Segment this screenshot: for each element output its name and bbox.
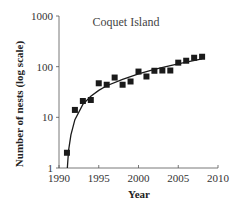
data-point: [64, 150, 70, 156]
data-point: [151, 68, 157, 74]
data-point: [183, 58, 189, 64]
data-point: [143, 73, 149, 79]
data-point: [112, 75, 118, 81]
y-tick-label: 10: [42, 111, 54, 123]
chart-title: Coquet Island: [93, 15, 160, 29]
data-point: [191, 55, 197, 61]
data-points: [64, 54, 205, 156]
data-point: [159, 68, 165, 74]
data-point: [175, 60, 181, 66]
data-point: [80, 98, 86, 104]
trend-line: [67, 59, 202, 168]
x-tick-label: 1995: [88, 172, 111, 184]
y-ticks: 1101001000: [31, 10, 59, 174]
data-point: [167, 68, 173, 74]
x-axis-label: Year: [128, 188, 150, 200]
data-point: [72, 107, 78, 113]
data-point: [199, 54, 205, 60]
axes: 1101001000 19901995200020052010: [31, 10, 230, 184]
y-tick-label: 1000: [31, 10, 54, 22]
data-point: [96, 80, 102, 86]
x-tick-label: 2010: [207, 172, 230, 184]
nest-count-chart: 1101001000 19901995200020052010 Coquet I…: [0, 0, 237, 211]
data-point: [136, 69, 142, 75]
data-point: [88, 97, 94, 103]
data-point: [104, 82, 110, 88]
x-tick-label: 2005: [167, 172, 190, 184]
y-axis-label: Number of nests (log scale): [13, 41, 26, 168]
data-point: [128, 78, 134, 84]
data-point: [120, 82, 126, 88]
x-tick-label: 2000: [128, 172, 151, 184]
x-tick-label: 1990: [48, 172, 71, 184]
y-tick-label: 100: [37, 61, 54, 73]
